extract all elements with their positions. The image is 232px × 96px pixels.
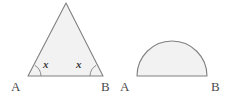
figure-page: A B x x A B [0, 0, 232, 96]
isosceles-triangle-shape [28, 3, 103, 76]
semicircle-shape [137, 41, 207, 76]
triangle-angle-label-left: x [43, 59, 49, 70]
semicircle-vertex-label-b: B [211, 80, 220, 93]
geometry-figure-canvas [0, 0, 232, 96]
semicircle-vertex-label-a: A [120, 80, 129, 93]
triangle-vertex-label-a: A [11, 80, 20, 93]
triangle-angle-label-right: x [76, 59, 82, 70]
triangle-vertex-label-b: B [101, 80, 110, 93]
